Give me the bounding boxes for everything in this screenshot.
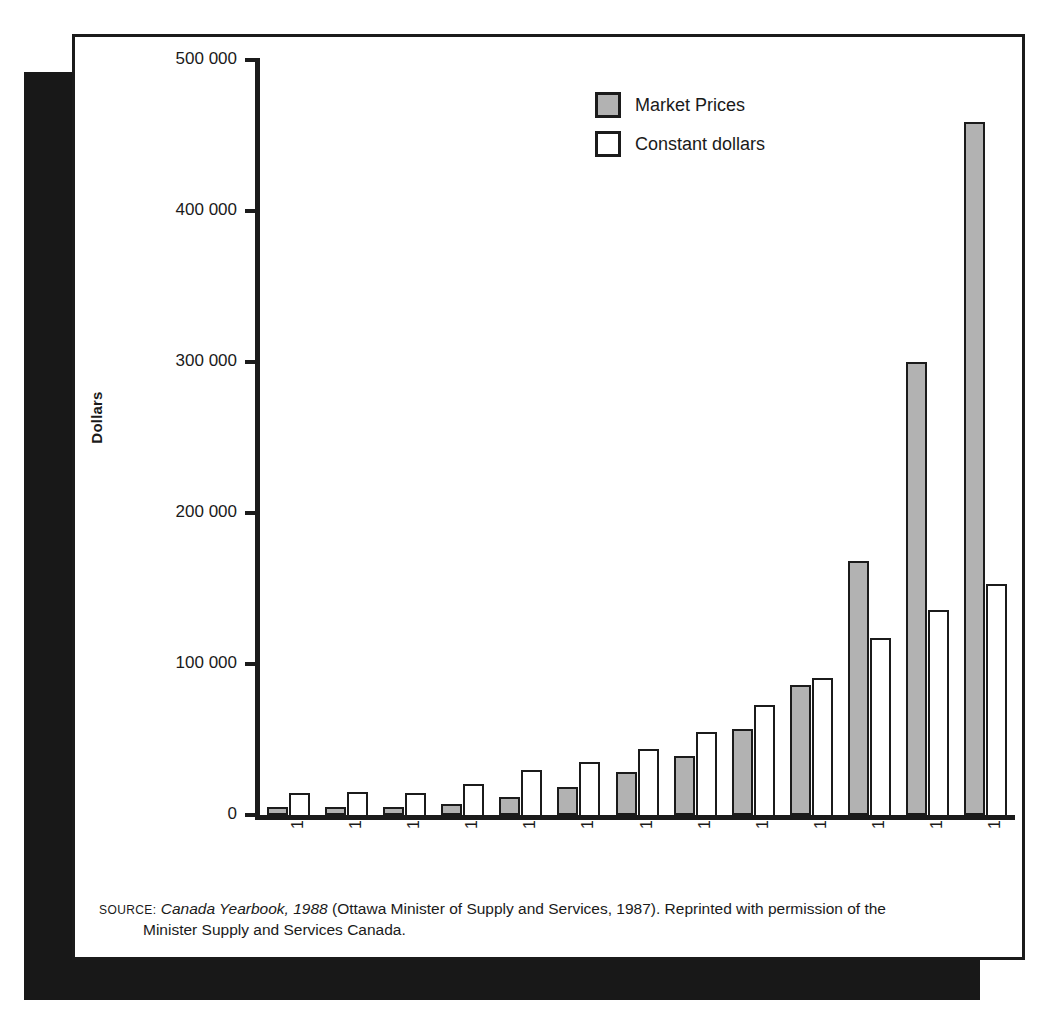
bar-1955-constant-dollars xyxy=(638,749,659,815)
y-axis-tick xyxy=(245,511,260,515)
bar-1975-constant-dollars xyxy=(870,638,891,815)
bar-1985-constant-dollars xyxy=(986,584,1007,815)
bar-1926-constant-dollars xyxy=(289,793,310,815)
source-note: SOURCE: Canada Yearbook, 1988 (Ottawa Mi… xyxy=(99,899,999,941)
bar-1955-market-prices xyxy=(616,772,637,815)
bar-1950-market-prices xyxy=(557,787,578,815)
legend-swatch-constant xyxy=(595,131,621,157)
x-axis-tick-label: 1945 xyxy=(510,825,532,895)
legend-swatch-market xyxy=(595,92,621,118)
x-axis-tick-label: 1955 xyxy=(627,825,649,895)
bar-1930-market-prices xyxy=(325,807,346,815)
x-axis-tick-label: 1950 xyxy=(568,825,590,895)
source-line2: Minister Supply and Services Canada. xyxy=(143,920,999,941)
bar-1940-market-prices xyxy=(441,804,462,815)
y-axis-tick xyxy=(245,58,260,62)
x-axis-tick-label: 1985 xyxy=(975,825,997,895)
y-axis-line xyxy=(255,60,260,820)
chart-legend: Market PricesConstant dollars xyxy=(595,92,765,170)
x-axis-tick-label: 1935 xyxy=(394,825,416,895)
bar-chart-plot: Dollars 0100 000200 000300 000400 000500… xyxy=(75,37,1022,957)
bar-1970-market-prices xyxy=(790,685,811,815)
bar-1950-constant-dollars xyxy=(579,762,600,815)
source-label: SOURCE: xyxy=(99,903,156,917)
bar-1965-constant-dollars xyxy=(754,705,775,815)
y-axis-tick xyxy=(245,813,260,817)
y-axis-tick-label: 500 000 xyxy=(117,49,237,69)
bar-1935-market-prices xyxy=(383,807,404,815)
y-axis-tick xyxy=(245,209,260,213)
bar-1985-market-prices xyxy=(964,122,985,815)
y-axis-title-label: Dollars xyxy=(88,391,105,443)
x-axis-tick-label: 1940 xyxy=(452,825,474,895)
bar-1930-constant-dollars xyxy=(347,792,368,815)
y-axis-tick xyxy=(245,360,260,364)
bar-1945-market-prices xyxy=(499,797,520,815)
bar-1960-market-prices xyxy=(674,756,695,815)
y-axis-tick-label: 400 000 xyxy=(117,200,237,220)
bar-1965-market-prices xyxy=(732,729,753,815)
legend-item-market-prices: Market Prices xyxy=(595,92,765,118)
x-axis-tick-label: 1970 xyxy=(801,825,823,895)
bar-1970-constant-dollars xyxy=(812,678,833,815)
y-axis-tick-label: 300 000 xyxy=(117,351,237,371)
legend-label: Constant dollars xyxy=(635,134,765,155)
bar-1935-constant-dollars xyxy=(405,793,426,815)
bar-1940-constant-dollars xyxy=(463,784,484,815)
y-axis-title: Dollars xyxy=(83,337,109,497)
figure-frame: Dollars 0100 000200 000300 000400 000500… xyxy=(72,34,1025,960)
bar-1926-market-prices xyxy=(267,807,288,815)
source-title: Canada Yearbook, 1988 xyxy=(161,900,328,917)
x-axis-tick-label: 1980 xyxy=(917,825,939,895)
x-axis-tick-label: 1975 xyxy=(859,825,881,895)
bar-1960-constant-dollars xyxy=(696,732,717,815)
legend-label: Market Prices xyxy=(635,95,745,116)
y-axis-tick-label: 0 xyxy=(117,804,237,824)
x-axis-line xyxy=(255,815,1015,820)
bar-1945-constant-dollars xyxy=(521,770,542,815)
bar-1975-market-prices xyxy=(848,561,869,815)
x-axis-tick-label: 1960 xyxy=(685,825,707,895)
bar-1980-constant-dollars xyxy=(928,610,949,815)
y-axis-tick xyxy=(245,662,260,666)
bar-1980-market-prices xyxy=(906,362,927,815)
x-axis-tick-label: 1965 xyxy=(743,825,765,895)
x-axis-tick-label: 1926 xyxy=(278,825,300,895)
y-axis-tick-label: 100 000 xyxy=(117,653,237,673)
y-axis-tick-label: 200 000 xyxy=(117,502,237,522)
source-rest: (Ottawa Minister of Supply and Services,… xyxy=(332,900,886,917)
legend-item-constant-dollars: Constant dollars xyxy=(595,131,765,157)
x-axis-tick-label: 1930 xyxy=(336,825,358,895)
